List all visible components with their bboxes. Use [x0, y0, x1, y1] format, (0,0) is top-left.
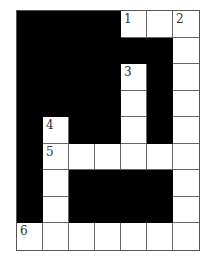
crossword-cell[interactable]: 4	[43, 117, 69, 144]
crossword-cell[interactable]	[173, 197, 199, 224]
black-square	[121, 170, 147, 197]
black-square	[147, 91, 173, 118]
black-square	[95, 170, 121, 197]
black-square	[121, 197, 147, 224]
crossword-cell[interactable]: 6	[17, 223, 43, 250]
crossword-cell[interactable]	[121, 91, 147, 118]
black-square	[69, 11, 95, 38]
black-square	[43, 64, 69, 91]
black-square	[17, 64, 43, 91]
black-square	[95, 197, 121, 224]
black-square	[17, 91, 43, 118]
crossword-cell[interactable]	[173, 64, 199, 91]
black-square	[17, 11, 43, 38]
clue-number: 4	[46, 119, 54, 131]
crossword-cell[interactable]	[173, 170, 199, 197]
black-square	[69, 91, 95, 118]
black-square	[17, 144, 43, 171]
crossword-cell[interactable]: 2	[173, 11, 199, 38]
black-square	[147, 64, 173, 91]
black-square	[17, 197, 43, 224]
crossword-cell[interactable]	[121, 144, 147, 171]
clue-number: 1	[124, 13, 132, 25]
black-square	[95, 11, 121, 38]
black-square	[95, 38, 121, 65]
crossword-cell[interactable]	[173, 38, 199, 65]
black-square	[95, 91, 121, 118]
black-square	[17, 170, 43, 197]
black-square	[17, 38, 43, 65]
crossword-cell[interactable]: 5	[43, 144, 69, 171]
crossword-cell[interactable]	[173, 144, 199, 171]
crossword-cell[interactable]	[173, 117, 199, 144]
black-square	[43, 91, 69, 118]
crossword-cell[interactable]: 1	[121, 11, 147, 38]
crossword-cell[interactable]	[147, 144, 173, 171]
crossword-cell[interactable]	[147, 11, 173, 38]
crossword-cell[interactable]	[69, 144, 95, 171]
black-square	[69, 64, 95, 91]
clue-number: 2	[176, 13, 184, 25]
crossword-cell[interactable]	[43, 170, 69, 197]
black-square	[95, 117, 121, 144]
black-square	[147, 197, 173, 224]
black-square	[121, 38, 147, 65]
black-square	[69, 38, 95, 65]
black-square	[69, 197, 95, 224]
black-square	[147, 170, 173, 197]
clue-number: 5	[46, 146, 54, 158]
black-square	[95, 64, 121, 91]
black-square	[43, 38, 69, 65]
crossword-cell[interactable]	[43, 197, 69, 224]
crossword-grid: 123456	[16, 10, 200, 251]
black-square	[69, 170, 95, 197]
black-square	[17, 117, 43, 144]
clue-number: 3	[124, 66, 132, 78]
black-square	[43, 11, 69, 38]
crossword-cell[interactable]	[121, 223, 147, 250]
crossword-cell[interactable]	[95, 144, 121, 171]
crossword-cell[interactable]	[95, 223, 121, 250]
crossword-cell[interactable]	[121, 117, 147, 144]
crossword-cell[interactable]	[147, 223, 173, 250]
black-square	[147, 117, 173, 144]
clue-number: 6	[20, 225, 28, 237]
black-square	[69, 117, 95, 144]
crossword-cell[interactable]	[43, 223, 69, 250]
crossword-cell[interactable]	[69, 223, 95, 250]
crossword-cell[interactable]	[173, 91, 199, 118]
crossword-cell[interactable]: 3	[121, 64, 147, 91]
crossword-cell[interactable]	[173, 223, 199, 250]
black-square	[147, 38, 173, 65]
